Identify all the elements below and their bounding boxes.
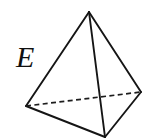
edge-back-left-to-back-right-hidden — [26, 92, 141, 106]
edge-apex-to-back-left — [26, 12, 89, 106]
edge-back-left-to-front-bottom — [26, 106, 105, 137]
edge-apex-to-front-bottom — [89, 12, 105, 137]
tetrahedron-figure: E — [0, 0, 148, 139]
vertex-label-E: E — [16, 42, 34, 72]
edge-back-right-to-front-bottom — [105, 92, 141, 137]
